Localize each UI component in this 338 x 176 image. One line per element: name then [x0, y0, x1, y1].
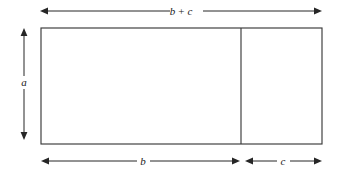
- top-arrowhead-right-icon: [314, 8, 322, 15]
- bottom-right-dimension-label: c: [281, 155, 286, 167]
- rectangle-interior: [41, 28, 322, 144]
- top-label-operator: +: [178, 5, 184, 17]
- left-dimension-label: a: [21, 76, 27, 88]
- bottom-b-arrowhead-right-icon: [232, 158, 240, 165]
- diagram-canvas: b+c a b c: [0, 0, 338, 176]
- bottom-left-dimension-label: b: [140, 155, 146, 167]
- left-arrowhead-top-icon: [21, 28, 28, 36]
- top-arrowhead-left-icon: [40, 8, 48, 15]
- bottom-c-arrowhead-left-icon: [245, 158, 253, 165]
- top-dimension-label: b+c: [170, 5, 193, 17]
- bottom-c-arrowhead-right-icon: [314, 158, 322, 165]
- bottom-b-arrowhead-left-icon: [41, 158, 49, 165]
- left-arrowhead-bottom-icon: [21, 132, 28, 140]
- top-label-term-right: c: [187, 5, 192, 17]
- top-label-term-left: b: [170, 5, 176, 17]
- geometry-figure: b+c a b c: [0, 0, 338, 176]
